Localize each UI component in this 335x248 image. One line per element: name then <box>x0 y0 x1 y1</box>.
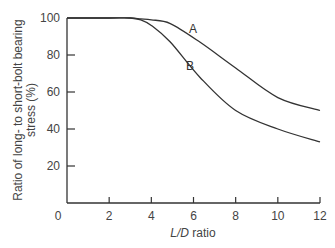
x-tick-label: 10 <box>271 209 285 223</box>
y-tick-label: 60 <box>47 85 61 99</box>
y-ticks <box>67 55 75 166</box>
y-axis-title: Ratio of long- to short-bolt bearing str… <box>11 19 38 200</box>
y-tick-labels: 20406080100 <box>40 11 60 173</box>
x-tick-label: 0 <box>55 209 62 223</box>
x-tick-labels: 024681012 <box>55 209 327 223</box>
x-tick-label: 12 <box>313 209 327 223</box>
series-b-line <box>67 18 320 142</box>
x-axis-title: L/D ratio <box>170 226 216 240</box>
y-axis-title-line1: Ratio of long- to short-bolt bearing <box>11 19 25 200</box>
y-tick-label: 40 <box>47 122 61 136</box>
series-a-label: A <box>189 22 197 36</box>
x-axis-title-italic: L/D <box>170 226 189 240</box>
x-tick-label: 4 <box>148 209 155 223</box>
y-tick-label: 80 <box>47 48 61 62</box>
plot-axes <box>67 18 320 203</box>
x-tick-label: 6 <box>190 209 197 223</box>
x-axis-title-rest: ratio <box>189 226 216 240</box>
series-b-label: B <box>186 59 194 73</box>
x-ticks <box>109 197 320 203</box>
y-axis-title-line2: stress (%) <box>24 83 38 137</box>
x-tick-label: 8 <box>232 209 239 223</box>
x-tick-label: 2 <box>106 209 113 223</box>
y-tick-label: 100 <box>40 11 60 25</box>
y-tick-label: 20 <box>47 159 61 173</box>
chart: 024681012 20406080100 A B L/D ratio Rati… <box>0 0 335 248</box>
